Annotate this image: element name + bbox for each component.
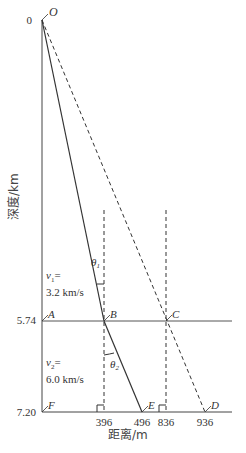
- y-tick-7-20: 7.20: [17, 406, 37, 418]
- point-label-c: C: [172, 308, 180, 320]
- layer1-velocity-label: v1= 3.2 km/s: [46, 269, 84, 298]
- point-label-o: O: [49, 5, 58, 19]
- point-label-d: D: [210, 399, 219, 411]
- y-axis-title: 深度/km: [4, 160, 18, 220]
- right-angle-marker-836: [159, 405, 166, 412]
- refraction-diagram: O A B C F E D θ1 θ2 0 5.74 7.20 396 496 …: [0, 0, 246, 453]
- theta2-arc: [104, 353, 114, 355]
- point-label-e: E: [147, 399, 155, 411]
- straight-ray-o-to-d: [42, 20, 205, 412]
- layer2-velocity-label: v2= 6.0 km/s: [46, 356, 84, 385]
- point-label-a: A: [47, 308, 55, 320]
- theta1-label: θ1: [91, 256, 100, 270]
- y-tick-0: 0: [27, 14, 33, 26]
- point-label-b: B: [110, 308, 117, 320]
- point-label-f: F: [47, 399, 55, 411]
- right-angle-marker-396: [97, 405, 104, 412]
- x-axis-title: 距离/m: [108, 425, 148, 442]
- x-tick-836: 836: [158, 416, 175, 428]
- theta2-label: θ2: [110, 358, 119, 372]
- y-tick-5-74: 5.74: [17, 314, 37, 326]
- x-tick-936: 936: [197, 416, 214, 428]
- leader-o: [42, 14, 48, 20]
